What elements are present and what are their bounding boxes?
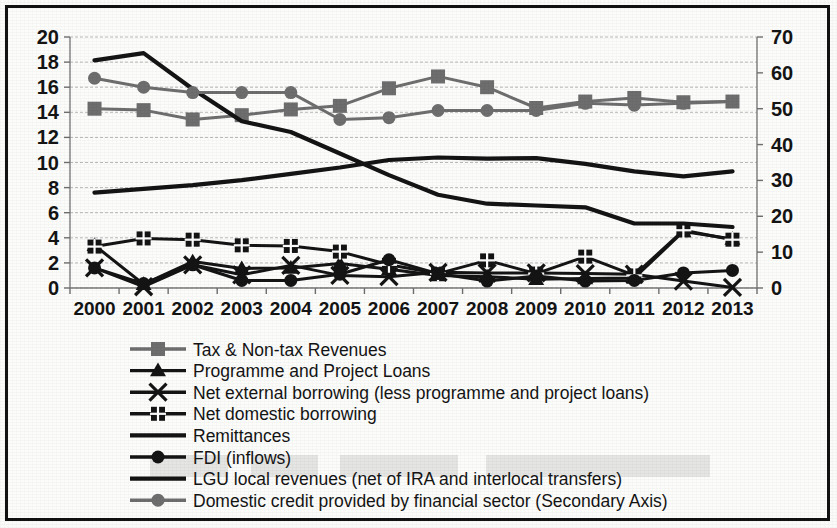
y2-tick-label: 40 bbox=[771, 134, 793, 156]
x-tick-label: 2011 bbox=[614, 298, 656, 319]
marker-square bbox=[151, 342, 165, 356]
legend-label: FDI (inflows) bbox=[193, 448, 291, 468]
marker-square bbox=[382, 81, 396, 95]
marker-circle bbox=[481, 275, 494, 288]
marker-circle bbox=[152, 451, 165, 464]
marker-circle bbox=[235, 86, 248, 99]
legend-label: Net external borrowing (less programme a… bbox=[193, 383, 649, 403]
legend-item: FDI (inflows) bbox=[130, 448, 291, 468]
marker-circle bbox=[481, 104, 494, 117]
line-chart: 02468101214161820 010203040506070 200020… bbox=[0, 0, 837, 528]
marker-circle bbox=[284, 86, 297, 99]
chart-legend: Tax & Non-tax RevenuesProgramme and Proj… bbox=[130, 340, 668, 511]
marker-circle bbox=[382, 253, 395, 266]
x-tick-label: 2004 bbox=[270, 298, 313, 319]
y2-tick-label: 60 bbox=[771, 62, 793, 84]
x-tick-label: 2013 bbox=[711, 298, 753, 319]
legend-item: Domestic credit provided by financial se… bbox=[130, 491, 668, 511]
marker-circle bbox=[186, 86, 199, 99]
x-tick-label: 2010 bbox=[564, 298, 606, 319]
marker-square bbox=[88, 102, 102, 116]
marker-circle bbox=[579, 275, 592, 288]
y-tick-label: 0 bbox=[48, 277, 59, 299]
legend-label: Net domestic borrowing bbox=[193, 404, 377, 424]
marker-circle bbox=[628, 274, 641, 287]
marker-circle bbox=[333, 113, 346, 126]
x-tick-label: 2012 bbox=[662, 298, 704, 319]
x-tick-label: 2007 bbox=[417, 298, 459, 319]
marker-circle bbox=[382, 111, 395, 124]
y-tick-label: 6 bbox=[48, 202, 59, 224]
x-tick-label: 2003 bbox=[221, 298, 263, 319]
legend-item: LGU local revenues (net of IRA and inter… bbox=[130, 469, 622, 489]
series-line bbox=[95, 53, 733, 227]
legend-label: Tax & Non-tax Revenues bbox=[193, 340, 387, 360]
x-tick-label: 2000 bbox=[73, 298, 115, 319]
marker-circle bbox=[88, 261, 101, 274]
legend-item: Tax & Non-tax Revenues bbox=[130, 340, 387, 360]
marker-circle bbox=[726, 264, 739, 277]
marker-circle bbox=[628, 99, 641, 112]
y2-tick-label: 30 bbox=[771, 169, 793, 191]
marker-square bbox=[431, 69, 445, 83]
x-tick-label: 2008 bbox=[466, 298, 508, 319]
y-tick-label: 8 bbox=[48, 177, 59, 199]
y-axis-tick-labels: 02468101214161820 bbox=[37, 26, 60, 299]
series-0 bbox=[88, 69, 740, 126]
marker-square bbox=[480, 80, 494, 94]
y2-tick-label: 10 bbox=[771, 241, 793, 263]
marker-square bbox=[333, 99, 347, 113]
marker-circle bbox=[579, 97, 592, 110]
x-tick-label: 2001 bbox=[122, 298, 165, 319]
legend-label: LGU local revenues (net of IRA and inter… bbox=[193, 469, 622, 489]
y-tick-label: 14 bbox=[37, 101, 60, 123]
series-6 bbox=[95, 53, 733, 227]
x-tick-label: 2009 bbox=[515, 298, 557, 319]
y2-tick-label: 0 bbox=[771, 277, 782, 299]
marker-circle bbox=[432, 267, 445, 280]
y2-tick-label: 20 bbox=[771, 205, 793, 227]
marker-circle bbox=[677, 97, 690, 110]
legend-item: Net external borrowing (less programme a… bbox=[130, 383, 649, 403]
marker-circle bbox=[530, 104, 543, 117]
y-tick-label: 20 bbox=[37, 26, 59, 48]
marker-circle bbox=[432, 104, 445, 117]
marker-circle bbox=[333, 268, 346, 281]
marker-square bbox=[186, 112, 200, 126]
legend-label: Domestic credit provided by financial se… bbox=[193, 491, 668, 511]
marker-circle bbox=[726, 95, 739, 108]
marker-circle bbox=[235, 274, 248, 287]
marker-square bbox=[284, 102, 298, 116]
y-tick-label: 4 bbox=[48, 227, 60, 249]
marker-circle bbox=[677, 266, 690, 279]
y-tick-label: 16 bbox=[37, 76, 59, 98]
y-tick-label: 12 bbox=[37, 126, 59, 148]
chart-container: 02468101214161820 010203040506070 200020… bbox=[0, 0, 837, 528]
marker-circle bbox=[530, 270, 543, 283]
legend-label: Remittances bbox=[193, 426, 291, 446]
x-tick-label: 2006 bbox=[368, 298, 410, 319]
marker-circle bbox=[137, 277, 150, 290]
y-tick-label: 2 bbox=[48, 252, 59, 274]
legend-item: Remittances bbox=[130, 426, 291, 446]
marker-circle bbox=[152, 494, 165, 507]
series-lines bbox=[86, 53, 741, 296]
marker-circle bbox=[186, 258, 199, 271]
legend-item: Programme and Project Loans bbox=[130, 361, 431, 381]
marker-square bbox=[137, 103, 151, 117]
x-axis-tick-labels: 2000200120022003200420052006200720082009… bbox=[73, 298, 753, 319]
legend-item: Net domestic borrowing bbox=[130, 404, 377, 424]
marker-circle bbox=[284, 274, 297, 287]
x-tick-label: 2005 bbox=[319, 298, 362, 319]
y2-tick-label: 70 bbox=[771, 26, 793, 48]
marker-circle bbox=[137, 81, 150, 94]
legend-label: Programme and Project Loans bbox=[193, 361, 431, 381]
secondary-y-axis-tick-labels: 010203040506070 bbox=[771, 26, 793, 299]
marker-circle bbox=[88, 72, 101, 85]
y-tick-label: 18 bbox=[37, 51, 59, 73]
scanned-page: 02468101214161820 010203040506070 200020… bbox=[0, 0, 837, 528]
y2-tick-label: 50 bbox=[771, 98, 793, 120]
x-tick-label: 2002 bbox=[172, 298, 214, 319]
y-tick-label: 10 bbox=[37, 152, 59, 174]
